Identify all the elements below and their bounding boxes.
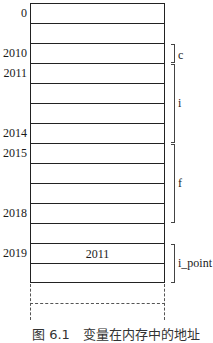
memory-cell-2010: [31, 44, 164, 64]
bracket-label-i: i: [178, 96, 181, 110]
memory-cell-2014: [31, 124, 164, 144]
memory-cell-2019: 2011: [31, 244, 164, 264]
bracket-label-i-point: i_point: [178, 256, 212, 270]
bracket-i-point: [171, 244, 175, 283]
memory-cell-2017: [31, 184, 164, 204]
memory-cell-2012: [31, 84, 164, 104]
memory-cell-2011: [31, 64, 164, 84]
address-label: 2018: [3, 206, 27, 220]
memory-cell-2018: [31, 204, 164, 224]
memory-block: 2011: [30, 3, 165, 283]
bracket-label-c: c: [178, 48, 183, 62]
address-label: 0: [21, 6, 27, 20]
memory-cell-2016: [31, 164, 164, 184]
address-label: 2014: [3, 126, 27, 140]
memory-cell-2020: [31, 264, 164, 284]
bracket-label-f: f: [178, 176, 182, 190]
bracket-c: [171, 44, 175, 63]
memory-cell-1: [31, 24, 164, 44]
address-label: 2019: [3, 246, 27, 260]
dashed-row-line: [30, 303, 165, 304]
memory-cell-empty: [31, 224, 164, 244]
address-label: 2011: [3, 66, 27, 80]
memory-cell-2013: [31, 104, 164, 124]
address-label: 2010: [3, 46, 27, 60]
figure-caption: 图 6.1 变量在内存中的地址: [32, 324, 200, 343]
memory-cell-2015: [31, 144, 164, 164]
dashed-left-edge: [30, 284, 31, 320]
bracket-i: [171, 64, 175, 143]
bracket-f: [171, 144, 175, 223]
address-label: 2015: [3, 146, 27, 160]
dashed-right-edge: [164, 284, 165, 320]
memory-cell-0: [31, 4, 164, 24]
